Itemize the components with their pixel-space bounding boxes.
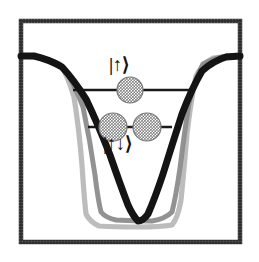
state-label-upper: |↑⟩ <box>109 55 128 74</box>
figure-canvas <box>0 0 259 262</box>
electron-particle-lower-right <box>133 113 161 141</box>
potential-well-figure: |↑⟩ |↑↓⟩ <box>0 0 259 262</box>
particle-group-upper <box>117 77 143 103</box>
state-label-lower: |↑↓⟩ <box>103 134 131 153</box>
electron-particle-upper <box>117 77 143 103</box>
